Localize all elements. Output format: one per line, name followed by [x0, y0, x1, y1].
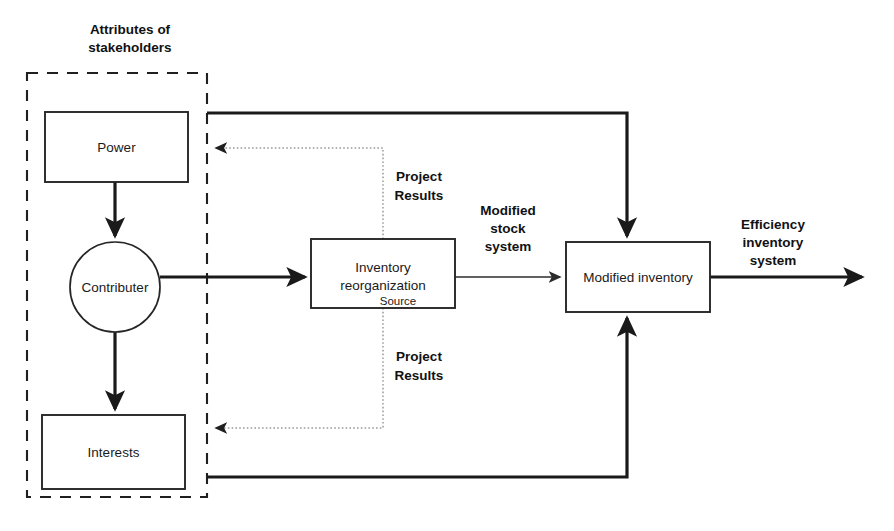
node-inventory-reorganization-label-line1: Inventory — [355, 260, 411, 275]
edge-label-efficiency-line2: inventory — [743, 235, 804, 250]
edge-label-efficiency-line3: system — [750, 253, 797, 268]
edge-label-modified-stock-line1: Modified — [480, 203, 536, 218]
edge-attributes-to-modified-inventory-bottom — [207, 318, 627, 477]
edge-label-project-results-top-line2: Results — [395, 188, 444, 203]
edge-label-efficiency-line1: Efficiency — [741, 217, 805, 232]
edge-label-project-results-bottom-line1: Project — [396, 349, 442, 364]
edge-label-project-results-top-line1: Project — [396, 169, 442, 184]
node-modified-inventory-label: Modified inventory — [583, 270, 693, 285]
edge-label-modified-stock-line3: system — [485, 239, 532, 254]
node-contributer-label: Contributer — [82, 280, 149, 295]
node-power-label: Power — [97, 140, 136, 155]
edge-project-results-to-interests — [216, 308, 383, 428]
group-title-line1: Attributes of — [90, 22, 171, 37]
diagram-canvas: Power Contributer Interests Inventory re… — [0, 0, 894, 531]
node-interests-label: Interests — [88, 445, 140, 460]
edge-label-modified-stock-line2: stock — [490, 221, 526, 236]
edge-label-project-results-bottom-line2: Results — [395, 368, 444, 383]
node-inventory-reorganization-label-line2: reorganization — [340, 278, 426, 293]
edge-project-results-to-power — [216, 148, 383, 239]
node-inventory-reorganization-sublabel: Source — [380, 295, 416, 307]
group-title-line2: stakeholders — [88, 40, 171, 55]
flowchart-diagram: Power Contributer Interests Inventory re… — [0, 0, 894, 531]
